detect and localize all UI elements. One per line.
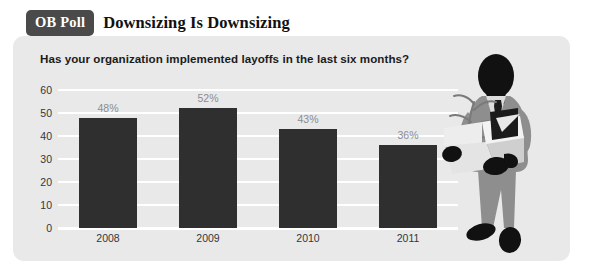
x-axis-tick-label: 2008 xyxy=(96,232,119,244)
chart-x-axis: 2008200920102011 xyxy=(58,232,458,250)
y-axis-tick-label: 20 xyxy=(40,176,52,188)
poll-header: OB Poll Downsizing Is Downsizing xyxy=(26,10,290,36)
y-axis-tick-label: 40 xyxy=(40,130,52,142)
poll-question: Has your organization implemented layoff… xyxy=(40,52,409,65)
poll-panel: Has your organization implemented layoff… xyxy=(13,36,570,261)
page-title: Downsizing Is Downsizing xyxy=(103,13,290,33)
chart-x-axis-line xyxy=(58,228,458,230)
chart-y-axis: 0102030405060 xyxy=(58,90,458,228)
ob-poll-badge: OB Poll xyxy=(26,10,94,36)
y-axis-tick-label: 30 xyxy=(40,153,52,165)
y-axis-tick-label: 50 xyxy=(40,107,52,119)
x-axis-tick-label: 2011 xyxy=(397,232,420,244)
x-axis-tick-label: 2010 xyxy=(296,232,319,244)
y-axis-tick-label: 10 xyxy=(40,199,52,211)
x-axis-tick-label: 2009 xyxy=(196,232,219,244)
y-axis-tick-label: 60 xyxy=(40,84,52,96)
y-axis-tick-label: 0 xyxy=(46,222,52,234)
illustration-head xyxy=(478,54,514,98)
laid-off-employee-illustration xyxy=(438,50,563,261)
illustration-shoe-right xyxy=(497,226,522,255)
